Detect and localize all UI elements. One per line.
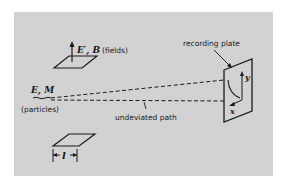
- fields-symbol: E′, B: [76, 45, 100, 56]
- fields-text: (fields): [102, 46, 128, 55]
- undeviated-path: [51, 100, 224, 101]
- recording-plate-pointer: [214, 50, 231, 67]
- field-arrow-head: [70, 41, 75, 47]
- particles-text: (particles): [21, 105, 59, 114]
- particles-symbol: E, M: [30, 85, 55, 96]
- lower-field-plate: [53, 134, 95, 146]
- mass-spectrograph-diagram: E′, B (fields) l E, M (particles) undevi…: [0, 0, 284, 184]
- y-axis-head: [240, 71, 244, 76]
- undeviated-pointer: [144, 102, 146, 109]
- recording-plate-label: recording plate: [183, 39, 240, 48]
- y-axis-label: y: [244, 72, 251, 82]
- parabola-trace: [228, 80, 240, 98]
- particle-squiggle: [33, 97, 51, 99]
- deviated-path: [51, 80, 224, 98]
- length-arrow-right: [73, 153, 77, 157]
- recording-plate: [224, 59, 252, 122]
- length-arrow-left: [53, 153, 57, 157]
- length-label: l: [62, 150, 66, 161]
- upper-field-plate: [54, 56, 97, 68]
- x-axis-label: x: [229, 106, 235, 116]
- undeviated-path-label: undeviated path: [115, 113, 177, 122]
